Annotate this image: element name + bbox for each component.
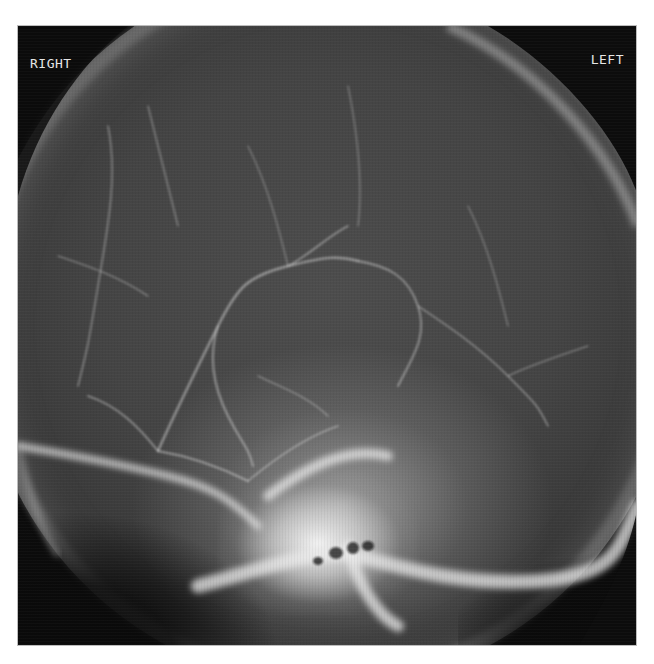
orientation-label-left: LEFT xyxy=(591,52,624,67)
blood-vessels-overlay xyxy=(18,26,637,646)
orientation-label-right: RIGHT xyxy=(30,56,72,71)
page: RIGHT LEFT xyxy=(0,0,654,664)
angiogram-xray-image: RIGHT LEFT xyxy=(17,25,637,646)
